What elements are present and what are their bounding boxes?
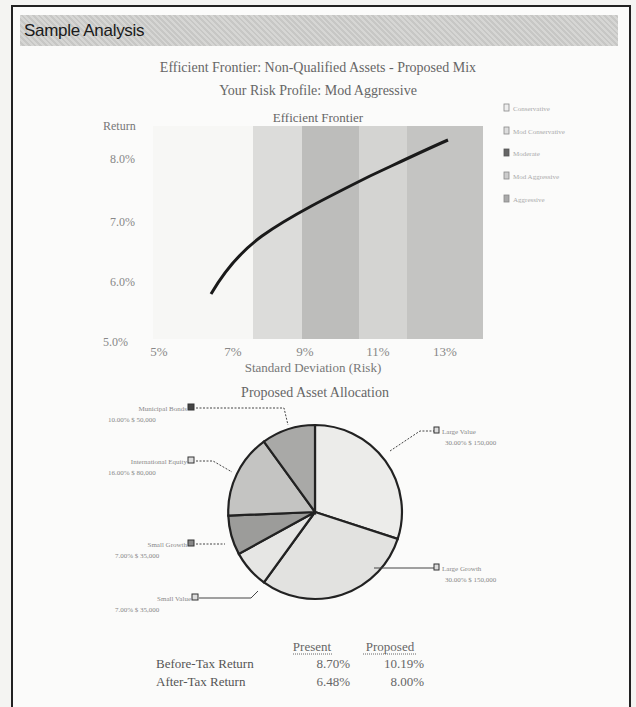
band-conservative — [253, 126, 302, 339]
legend-label: Mod Aggressive — [513, 173, 559, 181]
band-moderate — [359, 126, 407, 339]
frontier-title: Efficient Frontier — [273, 110, 364, 125]
label-municipal-bonds: Municipal Bonds — [139, 405, 188, 413]
legend-swatch-moderate — [504, 149, 509, 156]
legend-label: Aggressive — [513, 196, 545, 204]
y-tick: 6.0% — [110, 275, 135, 289]
before-tax-present: 8.70% — [316, 656, 350, 671]
label-large-growth: Large Growth — [442, 565, 482, 573]
legend-label: Mod Conservative — [513, 128, 565, 136]
x-tick: 9% — [296, 344, 314, 359]
row-label-before-tax: Before-Tax Return — [156, 656, 254, 671]
y-tick: 8.0% — [110, 152, 135, 166]
detail-large-growth: 30.00% $ 150,000 — [445, 576, 497, 584]
col-present: Present — [293, 639, 332, 654]
detail-small-value: 7.00% $ 35,000 — [115, 606, 160, 614]
legend-swatch-mod-conservative — [504, 127, 509, 134]
legend-swatch-aggressive — [504, 195, 509, 202]
legend-label: Conservative — [513, 105, 550, 113]
after-tax-proposed: 8.00% — [390, 674, 424, 689]
band-mod-conservative — [302, 126, 359, 339]
detail-large-value: 30.00% $ 150,000 — [445, 439, 497, 447]
detail-small-growth: 7.00% $ 35,000 — [115, 552, 160, 560]
legend-swatch-mod-aggressive — [504, 172, 509, 179]
returns-table: Present Proposed Before-Tax Return 8.70%… — [156, 639, 424, 689]
pie-title: Proposed Asset Allocation — [241, 385, 389, 400]
label-large-value: Large Value — [442, 428, 476, 436]
label-international-equity: International Equity — [131, 458, 188, 466]
frontier-legend: Conservative Mod Conservative Moderate M… — [504, 104, 565, 204]
x-tick: 7% — [224, 344, 242, 359]
x-axis-label: Standard Deviation (Risk) — [245, 360, 381, 375]
legend-label: Moderate — [513, 150, 540, 158]
allocation-pie — [228, 425, 402, 599]
detail-municipal-bonds: 10.00% $ 50,000 — [108, 416, 156, 424]
y-tick: 7.0% — [110, 215, 135, 229]
label-small-growth: Small Growth — [148, 541, 188, 549]
band-mod-aggressive — [407, 126, 483, 339]
y-axis-label: Return — [103, 119, 136, 133]
col-proposed: Proposed — [366, 639, 415, 654]
y-tick: 5.0% — [103, 335, 128, 349]
legend-swatch-conservative — [504, 104, 509, 111]
row-label-after-tax: After-Tax Return — [156, 674, 246, 689]
before-tax-proposed: 10.19% — [384, 656, 424, 671]
label-small-value: Small Value — [157, 595, 191, 603]
x-tick: 5% — [150, 344, 168, 359]
detail-international-equity: 16.00% $ 80,000 — [108, 469, 156, 477]
x-tick: 11% — [366, 344, 390, 359]
x-tick: 13% — [433, 344, 457, 359]
after-tax-present: 6.48% — [316, 674, 350, 689]
